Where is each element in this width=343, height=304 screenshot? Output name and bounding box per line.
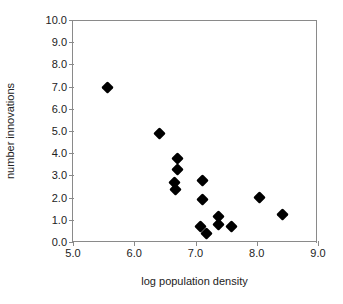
y-axis-tick-label: 8.0 xyxy=(52,59,67,70)
y-axis-tick xyxy=(69,109,74,110)
x-axis-tick-label: 8.0 xyxy=(249,248,264,259)
scatter-point xyxy=(212,218,225,231)
y-axis-tick xyxy=(69,131,74,132)
scatter-point xyxy=(225,220,238,233)
scatter-point xyxy=(253,191,266,204)
y-axis-tick-label: 0.0 xyxy=(52,237,67,248)
x-axis-tick xyxy=(134,241,135,246)
scatter-point xyxy=(170,183,183,196)
x-axis-tick xyxy=(318,241,319,246)
x-axis-title: log population density xyxy=(72,275,317,287)
y-axis-tick-label: 6.0 xyxy=(52,103,67,114)
y-axis-tick-label: 4.0 xyxy=(52,148,67,159)
x-axis-tick xyxy=(196,241,197,246)
scatter-point xyxy=(153,127,166,140)
y-axis-tick xyxy=(69,175,74,176)
x-axis-tick-label: 5.0 xyxy=(65,248,80,259)
y-axis-tick-label: 3.0 xyxy=(52,170,67,181)
x-axis-tick-label: 6.0 xyxy=(127,248,142,259)
plot-area: 0.01.02.03.04.05.06.07.08.09.010.0 5.06.… xyxy=(72,20,317,242)
y-axis-tick xyxy=(69,20,74,21)
y-axis-title: number innovations xyxy=(4,83,16,179)
x-axis-tick xyxy=(73,241,74,246)
y-axis-tick-label: 5.0 xyxy=(52,126,67,137)
y-axis-tick xyxy=(69,220,74,221)
y-axis-tick xyxy=(69,198,74,199)
x-axis-tick xyxy=(257,241,258,246)
scatter-point xyxy=(196,193,209,206)
y-axis-tick xyxy=(69,64,74,65)
y-axis-tick-label: 2.0 xyxy=(52,192,67,203)
y-axis-tick-label: 7.0 xyxy=(52,81,67,92)
y-axis-tick xyxy=(69,42,74,43)
y-axis-tick xyxy=(69,87,74,88)
scatter-point xyxy=(276,208,289,221)
y-axis-tick-label: 1.0 xyxy=(52,214,67,225)
y-axis-tick-label: 10.0 xyxy=(46,15,67,26)
chart-figure: 0.01.02.03.04.05.06.07.08.09.010.0 5.06.… xyxy=(0,0,343,304)
x-axis-tick-label: 7.0 xyxy=(188,248,203,259)
scatter-point xyxy=(196,175,209,188)
y-axis-tick xyxy=(69,153,74,154)
x-axis-tick-label: 9.0 xyxy=(310,248,325,259)
scatter-point xyxy=(101,81,114,94)
scatter-point xyxy=(171,163,184,176)
y-axis-tick-label: 9.0 xyxy=(52,37,67,48)
